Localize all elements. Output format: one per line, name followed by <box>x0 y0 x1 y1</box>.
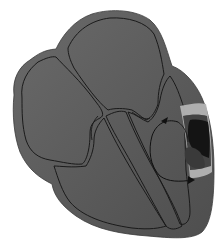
heart-diagram <box>0 0 224 248</box>
